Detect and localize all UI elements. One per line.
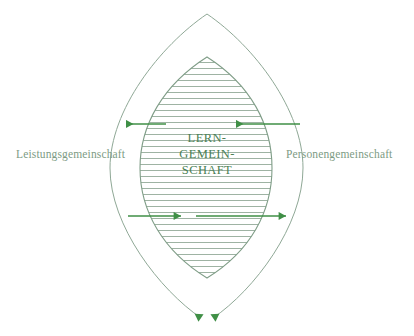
diagram-canvas: Leistungsgemeinschaft Personengemeinscha… [0, 0, 414, 336]
center-line-3: SCHAFT [0, 164, 414, 177]
center-line-1: LERN- [0, 132, 414, 145]
label-lerngemeinschaft: LERN- GEMEIN- SCHAFT [0, 132, 414, 177]
center-line-2: GEMEIN- [0, 148, 414, 161]
